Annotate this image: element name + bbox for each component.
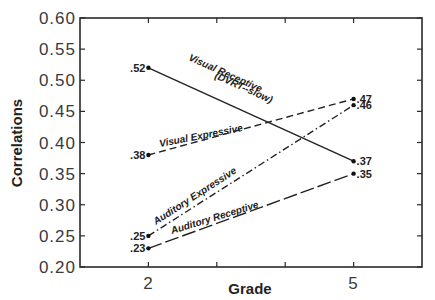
x-tick-label: 2: [143, 274, 153, 293]
data-value-label: .52: [130, 62, 145, 74]
y-axis-title: Correlations: [8, 99, 25, 187]
data-point: [146, 66, 150, 70]
data-value-label: .23: [130, 242, 145, 254]
y-tick-label: 0.50: [39, 71, 76, 90]
y-tick-label: 0.60: [39, 9, 76, 28]
x-axis-title: Grade: [228, 280, 271, 297]
data-value-label: .38: [130, 149, 145, 161]
data-point: [351, 159, 355, 163]
y-tick-label: 0.35: [39, 165, 76, 184]
data-value-label: .37: [357, 155, 372, 167]
x-axis-ticks: 25: [143, 18, 359, 293]
data-point: [146, 153, 150, 157]
y-tick-label: 0.55: [39, 40, 76, 59]
correlations-chart: 0.200.250.300.350.400.450.500.550.60 25 …: [0, 0, 435, 300]
series-line-auditory-expressive: [148, 105, 353, 236]
data-point: [146, 246, 150, 250]
y-tick-label: 0.45: [39, 102, 76, 121]
y-tick-label: 0.20: [39, 258, 76, 277]
data-point: [146, 234, 150, 238]
y-axis-ticks: 0.200.250.300.350.400.450.500.550.60: [39, 9, 422, 277]
data-value-label: .25: [130, 230, 145, 242]
data-value-label: .46: [357, 99, 372, 111]
series-label-visual-expressive: Visual Expressive: [158, 122, 244, 149]
y-tick-label: 0.40: [39, 134, 76, 153]
data-point: [351, 171, 355, 175]
data-point: [351, 97, 355, 101]
y-tick-label: 0.25: [39, 227, 76, 246]
series-visual-expressive: .38.47: [130, 93, 372, 161]
data-point: [351, 103, 355, 107]
x-tick-label: 5: [348, 274, 358, 293]
y-tick-label: 0.30: [39, 196, 76, 215]
data-value-label: .35: [357, 168, 372, 180]
